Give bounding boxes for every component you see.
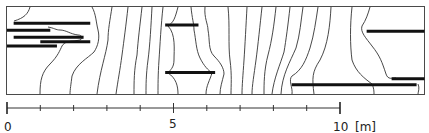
scale-label-0: 0	[4, 120, 12, 133]
contour-line	[351, 7, 375, 94]
scale-label-5: 5	[169, 117, 177, 131]
contour-line	[242, 7, 247, 94]
contour-line	[146, 7, 152, 94]
contour-line	[418, 84, 419, 94]
contour-line	[252, 7, 262, 94]
contour-line	[362, 7, 396, 78]
contour-line	[264, 7, 276, 94]
contour-line	[97, 7, 112, 94]
contour-line	[205, 7, 224, 94]
contour-line	[134, 7, 142, 94]
contour-line	[116, 7, 128, 94]
scale-bar: 0 5 10 [m]	[4, 102, 376, 133]
contour-line	[191, 7, 212, 94]
contour-line	[70, 7, 99, 94]
wall-frame	[7, 7, 425, 95]
scale-unit-label: [m]	[355, 120, 376, 133]
scale-label-10: 10	[333, 120, 348, 133]
contour-lines	[14, 7, 419, 94]
contour-line	[14, 7, 30, 21]
contour-diagram: 0 5 10 [m]	[0, 0, 429, 133]
contour-line	[168, 7, 178, 94]
contour-line	[158, 7, 163, 94]
contour-line	[228, 7, 231, 94]
